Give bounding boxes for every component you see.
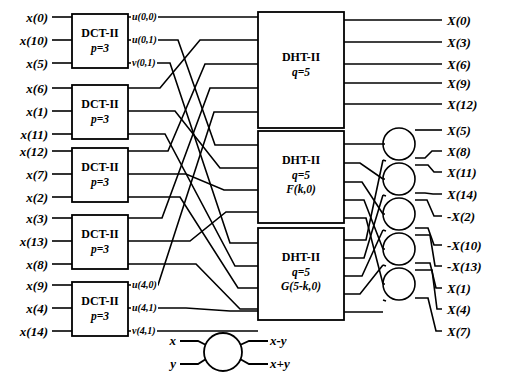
input-label-x14: x(14) (20, 325, 48, 338)
out-wire-X14 (415, 193, 442, 194)
input-label-x5: x(5) (26, 57, 48, 70)
butterfly-output-wires (415, 130, 442, 331)
output-label-X7: X(7) (447, 325, 471, 338)
input-label-x0: x(0) (26, 11, 48, 24)
bf-stub-l2b (383, 230, 386, 231)
input-label-x1: x(1) (26, 105, 48, 118)
dht-box-extra-1: F(k,0) (286, 183, 316, 195)
legend-in-bottom (180, 359, 206, 364)
dht-box-title-2: DHT-II (282, 250, 320, 264)
output-label-X9: X(9) (447, 77, 471, 90)
butterfly-node-1 (383, 163, 415, 195)
legend-glyph (180, 333, 268, 371)
input-label-x6: x(6) (26, 82, 48, 95)
wire-u3-0 (128, 88, 258, 218)
dht-box-label-1: DHT-II q=5 F(k,0) (282, 153, 320, 197)
dct-box-title-2: DCT-II (81, 160, 119, 174)
dht-box-param-1: q=5 (292, 169, 310, 181)
dht-box-label-0: DHT-II q=5 (282, 50, 320, 79)
dct-box-title-1: DCT-II (81, 97, 119, 111)
out-wire-negX13 (415, 235, 442, 266)
intermediate-label-v01: v(0,1) (131, 58, 157, 68)
legend-input-bottom-label: y (170, 356, 176, 372)
bf-in-G3 (344, 265, 383, 294)
input-wires (52, 17, 72, 331)
legend-in-top (180, 341, 206, 345)
dct-box-label-4: DCT-II p=3 (81, 294, 119, 323)
output-label-X1: X(1) (447, 282, 471, 295)
output-label-X11: X(11) (447, 166, 477, 179)
legend-input-top-label: x (170, 333, 177, 349)
dct-box-label-3: DCT-II p=3 (81, 227, 119, 256)
legend-circle (204, 333, 242, 371)
bf-in-G2 (344, 230, 383, 276)
output-label-X5: X(5) (447, 124, 471, 137)
intermediate-label-u41: u(4,1) (131, 303, 158, 313)
wire-u1-1 (128, 111, 258, 168)
output-label-X8: X(8) (447, 145, 471, 158)
dht-box-param-0: q=5 (292, 66, 310, 78)
input-label-x9: x(9) (26, 279, 48, 292)
output-label-negX10: -X(10) (447, 239, 482, 252)
butterfly-node-2 (383, 198, 415, 230)
dht-box-label-2: DHT-II q=5 G(5-k,0) (281, 250, 321, 294)
butterfly-node-4 (383, 268, 415, 300)
intermediate-label-v41: v(4,1) (131, 326, 157, 336)
output-label-negX2: -X(2) (447, 210, 475, 223)
dct-box-title-0: DCT-II (81, 26, 119, 40)
intermediate-label-u40: u(4,0) (131, 280, 158, 290)
butterfly-node-3 (383, 233, 415, 265)
figure-canvas: x(0) x(10) x(5) x(6) x(1) x(11) x(12) x(… (0, 0, 509, 385)
input-label-x8: x(8) (26, 258, 48, 271)
dct-box-label-1: DCT-II p=3 (81, 97, 119, 126)
dht-box-extra-2: G(5-k,0) (281, 280, 321, 292)
butterfly-nodes (383, 128, 415, 300)
dct-box-label-0: DCT-II p=3 (81, 26, 119, 55)
dht-box-title-1: DHT-II (282, 153, 320, 167)
input-label-x13: x(13) (20, 235, 48, 248)
input-label-x2: x(2) (26, 191, 48, 204)
input-label-x10: x(10) (20, 34, 48, 47)
bf-stub-l0b (383, 160, 386, 161)
intermediate-label-u00: u(0,0) (131, 12, 158, 22)
dct-box-param-0: p=3 (91, 42, 109, 54)
dht-box-param-2: q=5 (292, 266, 310, 278)
output-label-negX13: -X(13) (447, 260, 482, 273)
output-label-X3: X(3) (447, 36, 471, 49)
bf-stub-l4b (383, 300, 386, 301)
dct-box-title-3: DCT-II (81, 227, 119, 241)
out-wire-X7 (415, 298, 442, 331)
bf-in-F1 (344, 163, 383, 179)
signal-flow-wires (0, 0, 509, 385)
output-label-X0: X(0) (447, 14, 471, 27)
dht-box-title-0: DHT-II (282, 50, 320, 64)
butterfly-input-wires (344, 144, 383, 312)
output-label-X14: X(14) (447, 188, 477, 201)
output-label-X4: X(4) (447, 303, 471, 316)
input-label-x11: x(11) (21, 128, 48, 141)
dct-box-param-3: p=3 (91, 243, 109, 255)
legend-out-top (240, 341, 268, 345)
out-wire-negX2 (415, 200, 442, 216)
bf-stub-l3b (383, 265, 386, 266)
dct-box-param-1: p=3 (91, 113, 109, 125)
out-wire-negX10 (415, 228, 442, 245)
input-label-x7: x(7) (26, 168, 48, 181)
input-label-x4: x(4) (26, 302, 48, 315)
bf-stub-l1b (383, 195, 386, 196)
out-wire-X8 (415, 151, 442, 158)
wire-v1-1 (128, 134, 258, 266)
dct-box-title-4: DCT-II (81, 294, 119, 308)
legend-output-top-label: x-y (270, 333, 287, 349)
input-label-x3: x(3) (26, 212, 48, 225)
input-label-x12: x(12) (20, 145, 48, 158)
wire-u4-0 (128, 112, 258, 285)
output-label-X12: X(12) (447, 98, 477, 111)
intermediate-label-u01: u(0,1) (131, 35, 158, 45)
output-label-X6: X(6) (447, 58, 471, 71)
butterfly-node-0 (383, 128, 415, 160)
legend-output-bottom-label: x+y (270, 356, 290, 372)
dct-box-param-4: p=3 (91, 310, 109, 322)
wire-u2-0 (128, 64, 258, 151)
dht1-output-wires (344, 20, 442, 104)
